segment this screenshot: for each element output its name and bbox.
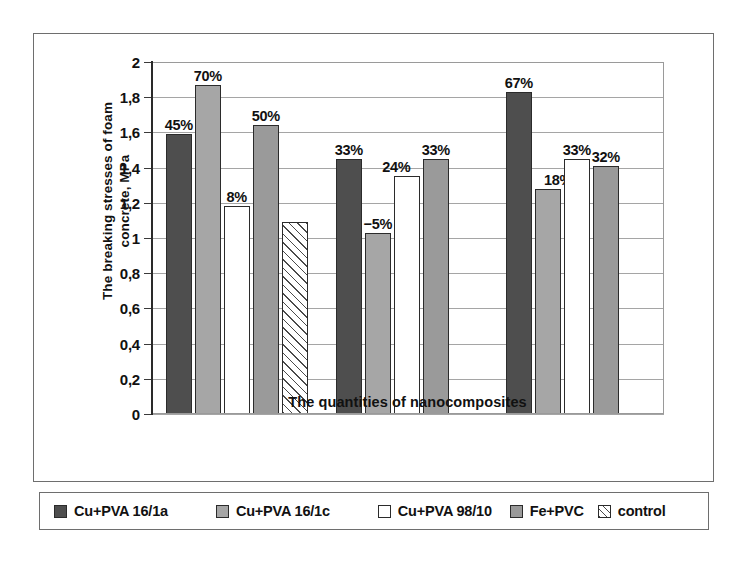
bar[interactable]: 24% (394, 176, 420, 414)
gridline (151, 414, 664, 415)
gridline (151, 97, 664, 98)
y-tick-label: 1 (132, 230, 140, 247)
y-tick-label: 1,6 (120, 124, 140, 141)
bar-value-label: 33% (563, 142, 591, 158)
legend-item-s4[interactable]: control (598, 503, 666, 519)
y-tick-label: 0 (132, 406, 140, 423)
bar-value-label: 8% (227, 189, 247, 205)
y-tick-label: 1,4 (120, 159, 140, 176)
y-axis-line (151, 61, 153, 415)
bar[interactable]: 18% (535, 189, 561, 414)
bar-value-label: 33% (422, 142, 450, 158)
bar[interactable]: 67% (506, 92, 532, 414)
legend-item-s1[interactable]: Cu+PVA 16/1c (216, 503, 330, 519)
gridline (151, 62, 664, 63)
bar-value-label: 45% (165, 117, 193, 133)
chart-figure: The breaking stresses of foam concrete, … (33, 33, 714, 482)
legend-item-s2[interactable]: Cu+PVA 98/10 (378, 503, 492, 519)
bar-value-label: −5% (363, 216, 392, 232)
bar-value-label: 33% (335, 142, 363, 158)
legend-item-s3[interactable]: Fe+PVC (510, 503, 584, 519)
legend-swatch-icon (216, 505, 229, 518)
bar-value-label: 70% (194, 68, 222, 84)
bar-value-label: 32% (592, 149, 620, 165)
bar[interactable]: 33% (336, 159, 362, 414)
bar-value-label: 67% (505, 75, 533, 91)
y-axis-title-line-1: The breaking stresses of foam (99, 51, 116, 351)
bar[interactable]: 45% (166, 134, 192, 414)
bar[interactable]: 32% (593, 166, 619, 414)
y-tick-label: 1,8 (120, 89, 140, 106)
legend-label: Cu+PVA 16/1c (236, 503, 330, 519)
bar[interactable]: 33% (423, 159, 449, 414)
y-tick-label: 0,8 (120, 265, 140, 282)
y-tick-label: 0,6 (120, 300, 140, 317)
legend-swatch-icon (510, 505, 523, 518)
y-tick-label: 1,2 (120, 194, 140, 211)
legend-swatch-icon (598, 505, 611, 518)
bar[interactable]: 33% (564, 159, 590, 414)
legend-item-s0[interactable]: Cu+PVA 16/1a (54, 503, 168, 519)
bar[interactable]: 50% (253, 125, 279, 414)
legend-label: Cu+PVA 98/10 (398, 503, 492, 519)
gridline (151, 132, 664, 133)
legend-label: Cu+PVA 16/1a (74, 503, 168, 519)
legend-label: Fe+PVC (530, 503, 584, 519)
legend-label: control (618, 503, 666, 519)
bar[interactable]: 70% (195, 85, 221, 414)
bar-value-label: 50% (252, 108, 280, 124)
legend-swatch-icon (378, 505, 391, 518)
plot-area: 21,81,61,41,210,80,60,40,20 45%70%8%50%3… (151, 62, 664, 414)
y-tick-label: 0,4 (120, 335, 140, 352)
chart-legend: Cu+PVA 16/1aCu+PVA 16/1cCu+PVA 98/10Fe+P… (39, 492, 709, 530)
legend-swatch-icon (54, 505, 67, 518)
y-tick-label: 2 (132, 54, 140, 71)
y-tick-label: 0,2 (120, 370, 140, 387)
bar-value-label: 24% (382, 159, 410, 175)
bar[interactable]: −5% (365, 233, 391, 414)
x-axis-title: The quantities of nanocomposites (151, 394, 664, 410)
bar[interactable]: 8% (224, 206, 250, 414)
bar[interactable] (282, 222, 308, 414)
